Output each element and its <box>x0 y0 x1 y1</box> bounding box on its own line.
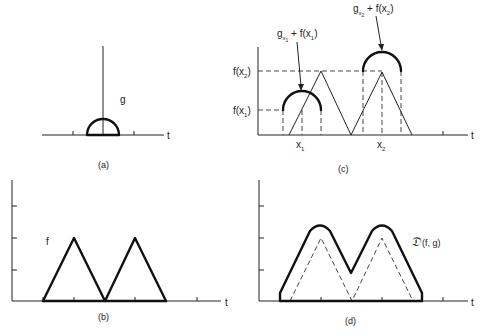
panel-c-annotation-1: gx1 + f(x1) <box>277 28 318 43</box>
panel-b-caption: (b) <box>98 312 109 322</box>
panel-c: gx1 + f(x1) gx2 + f(x2) f(x2) f(x1) x1 x… <box>233 3 474 174</box>
panel-c-g-x1-semicircle <box>283 91 321 110</box>
panel-a-caption: (a) <box>98 160 109 170</box>
panel-c-caption: (c) <box>338 164 349 174</box>
panel-c-arrow-1 <box>297 42 301 86</box>
panel-c-arrowhead-2 <box>378 44 384 51</box>
panel-c-y-label-fx2: f(x2) <box>233 66 251 79</box>
panel-d-dilation-curve <box>280 226 422 302</box>
panel-c-annotation-2: gx2 + f(x2) <box>353 3 394 18</box>
panel-a-t-label: t <box>167 130 170 141</box>
panel-c-x-label-x2: x2 <box>377 139 386 152</box>
panel-d-t-label: t <box>471 297 474 308</box>
panel-c-t-label: t <box>471 130 474 141</box>
panel-c-y-label-fx1: f(x1) <box>233 105 251 118</box>
panel-c-arrow-2 <box>376 16 381 45</box>
panel-b: f t (b) <box>12 180 228 322</box>
panel-b-f-label: f <box>46 236 49 247</box>
panel-b-function-f <box>43 238 166 301</box>
panel-d-caption: (d) <box>345 316 356 326</box>
panel-c-function-f <box>289 71 412 135</box>
panel-d-dilation-label: 𝔇(f, g) <box>411 234 441 249</box>
panel-a: t g (a) <box>42 46 170 170</box>
panel-d: 𝔇(f, g) t (d) <box>259 180 474 326</box>
panel-c-g-x2-semicircle <box>363 52 401 71</box>
panel-b-t-label: t <box>225 297 228 308</box>
panel-c-x-label-x1: x1 <box>296 139 305 152</box>
figure-canvas: t g (a) gx1 + f(x1) gx2 + f(x2 <box>0 0 480 336</box>
panel-a-g-label: g <box>120 94 126 105</box>
